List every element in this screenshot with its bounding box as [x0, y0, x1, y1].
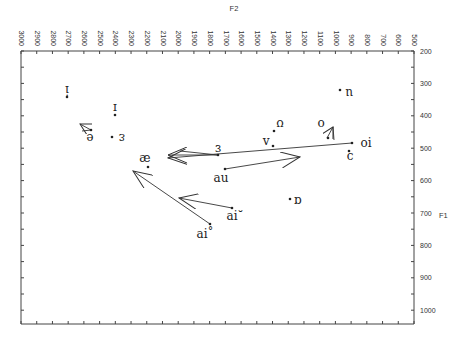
x-axis-title: F2 [230, 4, 239, 13]
point-au [224, 168, 227, 171]
point-uh2 [273, 130, 276, 133]
trajectory-au [225, 157, 300, 169]
plot-frame [21, 51, 414, 324]
label-au: au [214, 171, 229, 185]
point-e [90, 129, 93, 132]
y-tick-label: 1000 [420, 307, 436, 314]
x-tick-label: 3000 [18, 30, 25, 46]
x-tick-label: 1600 [238, 30, 245, 46]
y-tick-label: 700 [420, 210, 432, 217]
y-tick-label: 400 [420, 112, 432, 119]
x-tick-label: 1500 [254, 30, 261, 46]
point-ai-ring [209, 223, 212, 226]
point-aa [289, 198, 292, 201]
x-tick-label: 2300 [128, 30, 135, 46]
label-aw: ɔ [346, 150, 353, 164]
y-axis-title: F1 [439, 211, 448, 220]
x-tick-label: 1300 [285, 30, 292, 46]
x-tick-label: 1900 [191, 30, 198, 46]
y-tick-label: 500 [420, 145, 432, 152]
x-tick-label: 900 [348, 34, 355, 46]
label-aa: ɑ [294, 194, 302, 208]
point-u [339, 89, 342, 92]
point-eh [111, 136, 114, 139]
x-tick-label: 1100 [317, 31, 324, 46]
y-tick-label: 900 [420, 274, 432, 281]
x-tick-label: 2900 [34, 30, 41, 46]
label-ai-short: ai˘ [227, 209, 244, 223]
x-tick-label: 600 [395, 34, 402, 46]
x-tick-label: 2500 [97, 30, 104, 46]
label-ae: æ [139, 151, 150, 165]
point-o [327, 137, 330, 140]
point-oi [351, 142, 354, 145]
x-tick-label: 1000 [333, 30, 340, 46]
label-ih: ɪ [113, 101, 117, 115]
x-tick-label: 2100 [160, 30, 167, 46]
x-tick-label: 1800 [207, 30, 214, 46]
x-tick-label: 500 [411, 34, 418, 46]
trajectory-o-stem [333, 127, 334, 140]
label-o: o [317, 117, 324, 131]
label-eh: ɛ [119, 131, 125, 145]
label-ai-ring: ai˚ [197, 226, 214, 241]
point-uh [272, 145, 275, 148]
x-tick-label: 800 [364, 34, 371, 46]
trajectory-ai-short [179, 198, 232, 208]
x-tick-label: 2000 [175, 30, 182, 46]
y-tick-label: 300 [420, 80, 432, 87]
label-e: e [86, 131, 93, 145]
data-points [66, 89, 354, 226]
x-tick-label: 2200 [144, 30, 151, 46]
trajectory-o [327, 127, 333, 138]
formant-chart: 3000290028002700260025002400230022002100… [0, 0, 459, 342]
trajectory-e [80, 124, 91, 130]
x-tick-label: 2800 [50, 30, 57, 46]
label-uh: ʌ [262, 135, 270, 149]
label-oi: oi [360, 136, 371, 150]
x-tick-label: 700 [380, 34, 387, 46]
x-tick-label: 1700 [223, 30, 230, 46]
x-tick-label: 2700 [65, 30, 72, 46]
y-tick-label: 800 [420, 242, 432, 249]
trajectory-e-branch [82, 130, 91, 131]
trajectory-ai-ring [133, 171, 210, 224]
vowel-labels: i ɪ e ɛ æ ɜ ʌ ʊ u o oi ɔ au ɑ ai˘ ai˚ [65, 83, 372, 241]
x-tick-label: 1400 [270, 30, 277, 46]
label-u: u [345, 86, 353, 100]
x-tick-label: 1200 [301, 30, 308, 46]
x-tick-label: 2400 [112, 30, 119, 46]
label-uh2: ʊ [276, 117, 283, 131]
x-tick-label: 2600 [81, 30, 88, 46]
label-i: i [65, 83, 69, 97]
label-er: ɜ [215, 141, 221, 155]
y-tick-label: 200 [420, 48, 432, 55]
trajectory-oi [168, 143, 352, 158]
y-tick-label: 600 [420, 177, 432, 184]
point-ae [147, 166, 150, 169]
